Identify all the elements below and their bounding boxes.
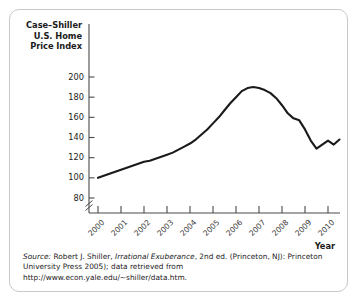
y-tick-label: 200 bbox=[56, 72, 84, 82]
source-caption: Source: Robert J. Shiller, Irrational Ex… bbox=[23, 252, 337, 283]
y-tick-label: 140 bbox=[56, 132, 84, 142]
caption-source-word: Source: bbox=[23, 252, 51, 261]
data-line-series bbox=[98, 87, 340, 178]
figure-card: Case–Shiller U.S. Home Price Index 80100… bbox=[9, 9, 348, 292]
y-tick-label: 120 bbox=[56, 152, 84, 162]
x-axis-ticks bbox=[98, 206, 328, 213]
y-axis-ticks bbox=[89, 77, 95, 198]
chart-plot-area: Case–Shiller U.S. Home Price Index 80100… bbox=[10, 10, 349, 255]
y-tick-label: 160 bbox=[56, 112, 84, 122]
x-axis-title: Year bbox=[315, 241, 335, 252]
caption-book-title: Irrational Exuberance bbox=[115, 252, 195, 261]
caption-author: Robert J. Shiller, bbox=[51, 252, 115, 261]
y-tick-label: 80 bbox=[56, 193, 84, 203]
y-tick-label: 180 bbox=[56, 92, 84, 102]
y-tick-label: 100 bbox=[56, 172, 84, 182]
